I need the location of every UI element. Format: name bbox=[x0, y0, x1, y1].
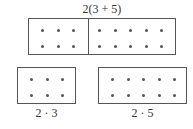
dot bbox=[127, 78, 130, 81]
dot bbox=[46, 94, 49, 97]
dot bbox=[142, 78, 145, 81]
dot bbox=[145, 45, 148, 48]
dot bbox=[173, 78, 176, 81]
dot bbox=[41, 45, 44, 48]
dot bbox=[57, 45, 60, 48]
dot bbox=[30, 94, 33, 97]
dot bbox=[173, 94, 176, 97]
dot bbox=[46, 78, 49, 81]
dot bbox=[111, 78, 114, 81]
array-2x3-box bbox=[17, 67, 76, 104]
dot bbox=[72, 29, 75, 32]
dot bbox=[129, 45, 132, 48]
dot bbox=[114, 45, 117, 48]
array-2x3-label: 2 · 3 bbox=[17, 106, 76, 120]
dot bbox=[61, 94, 64, 97]
dot bbox=[98, 29, 101, 32]
array-2x5-box bbox=[98, 67, 187, 104]
dot bbox=[158, 94, 161, 97]
dot bbox=[111, 94, 114, 97]
dot bbox=[160, 29, 163, 32]
dot bbox=[160, 45, 163, 48]
dot bbox=[30, 78, 33, 81]
dot bbox=[129, 29, 132, 32]
dot bbox=[145, 29, 148, 32]
top-expression-label: 2(3 + 5) bbox=[72, 2, 132, 16]
dot bbox=[57, 29, 60, 32]
dot bbox=[41, 29, 44, 32]
array-divider bbox=[88, 19, 89, 54]
combined-array-box bbox=[28, 18, 176, 55]
dot bbox=[61, 78, 64, 81]
dot bbox=[142, 94, 145, 97]
dot bbox=[98, 45, 101, 48]
dot bbox=[72, 45, 75, 48]
dot bbox=[158, 78, 161, 81]
dot bbox=[127, 94, 130, 97]
array-2x5-label: 2 · 5 bbox=[98, 106, 187, 120]
dot bbox=[114, 29, 117, 32]
